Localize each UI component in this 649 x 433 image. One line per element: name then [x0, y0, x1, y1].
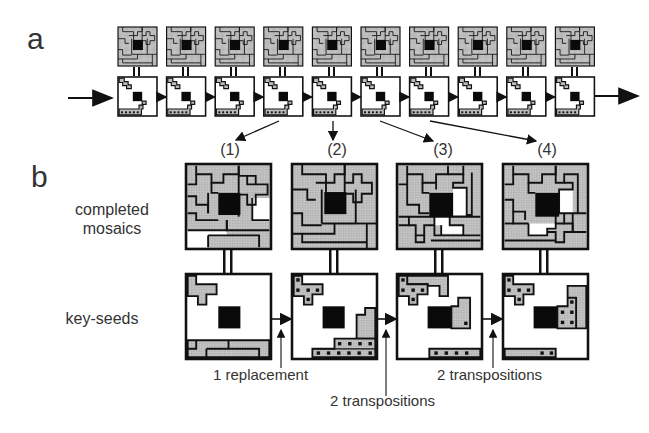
key-seed-1 — [186, 274, 271, 359]
completed-mosaic-4 — [503, 164, 588, 249]
key-seed-4 — [503, 274, 588, 359]
sequence-item-5 — [312, 27, 351, 116]
sequence-item-6 — [361, 27, 400, 116]
panel-a-sequence — [68, 27, 638, 141]
sequence-item-9 — [507, 27, 546, 116]
sequence-item-7 — [410, 27, 449, 116]
panel-b-detail — [186, 164, 588, 396]
key-seed-3 — [397, 274, 482, 359]
completed-mosaic-3 — [397, 164, 482, 249]
sequence-item-3 — [215, 27, 254, 116]
selection-arrow-1 — [236, 121, 279, 140]
selection-arrow-3 — [380, 121, 433, 141]
sequence-item-4 — [264, 27, 303, 116]
figure-graphics — [0, 0, 649, 433]
sequence-item-2 — [167, 27, 206, 116]
completed-mosaic-1 — [186, 164, 271, 249]
sequence-item-10 — [555, 27, 594, 116]
selection-arrow-4 — [430, 121, 536, 141]
key-seed-2 — [292, 274, 377, 359]
sequence-item-8 — [458, 27, 497, 116]
sequence-item-1 — [118, 27, 157, 116]
completed-mosaic-2 — [292, 164, 377, 249]
